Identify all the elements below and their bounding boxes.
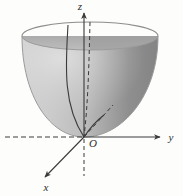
y-axis-label: y: [168, 131, 174, 143]
x-axis-positive: [45, 137, 84, 177]
figure-container: z y x O: [0, 0, 183, 196]
paraboloid-highlight: [22, 36, 158, 137]
x-axis-label: x: [43, 181, 49, 193]
paraboloid-diagram: z y x O: [0, 0, 183, 196]
z-axis-label: z: [77, 0, 83, 12]
origin-label: O: [89, 137, 97, 149]
